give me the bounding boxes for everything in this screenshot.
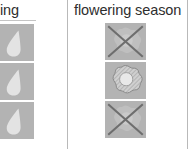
water-drop-icon bbox=[0, 102, 34, 139]
header-underline bbox=[0, 20, 36, 21]
cell-feeding-row-1 bbox=[0, 24, 34, 61]
table-fragment: eding flowering season bbox=[0, 0, 192, 149]
water-drop-icon bbox=[0, 24, 34, 61]
cell-flowering-row-3 bbox=[105, 101, 146, 138]
cell-flowering-row-2 bbox=[105, 62, 146, 99]
cell-feeding-row-2 bbox=[0, 63, 34, 100]
flower-icon bbox=[113, 66, 142, 93]
cell-feeding-row-3 bbox=[0, 102, 34, 139]
water-drop-icon bbox=[0, 63, 34, 100]
column-header-flowering-season: flowering season bbox=[74, 0, 186, 20]
column-divider-left bbox=[67, 0, 68, 149]
column-divider-right bbox=[187, 0, 188, 149]
column-header-feeding: eding bbox=[0, 0, 50, 20]
cell-flowering-row-1 bbox=[105, 23, 146, 60]
table-header-row: eding flowering season bbox=[0, 0, 192, 22]
